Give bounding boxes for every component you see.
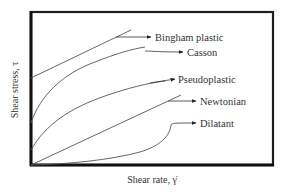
curve-newtonian: Newtonian bbox=[31, 95, 247, 165]
dilatant-leader-arrow bbox=[171, 123, 196, 125]
newtonian-label: Newtonian bbox=[200, 96, 247, 107]
curve-dilatant: Dilatant bbox=[31, 118, 234, 166]
rheology-flow-curves-diagram: Bingham plastic Casson Pseudoplastic New… bbox=[0, 0, 291, 192]
pseudoplastic-curve bbox=[31, 81, 165, 150]
casson-label: Casson bbox=[187, 47, 218, 58]
curve-pseudoplastic: Pseudoplastic bbox=[31, 74, 236, 151]
plot-frame bbox=[31, 12, 273, 165]
x-axis-label: Shear rate, γ̇ bbox=[127, 174, 178, 185]
curve-casson: Casson bbox=[31, 47, 218, 123]
casson-leader-arrow bbox=[145, 51, 183, 52]
casson-curve bbox=[31, 47, 145, 123]
newtonian-line bbox=[31, 95, 181, 165]
bingham-plastic-label: Bingham plastic bbox=[155, 32, 224, 43]
pseudoplastic-label: Pseudoplastic bbox=[178, 74, 236, 85]
dilatant-label: Dilatant bbox=[200, 118, 234, 129]
y-axis-label: Shear stress, τ bbox=[9, 62, 20, 119]
dilatant-curve bbox=[31, 125, 171, 165]
pseudoplastic-leader-arrow bbox=[150, 79, 175, 83]
